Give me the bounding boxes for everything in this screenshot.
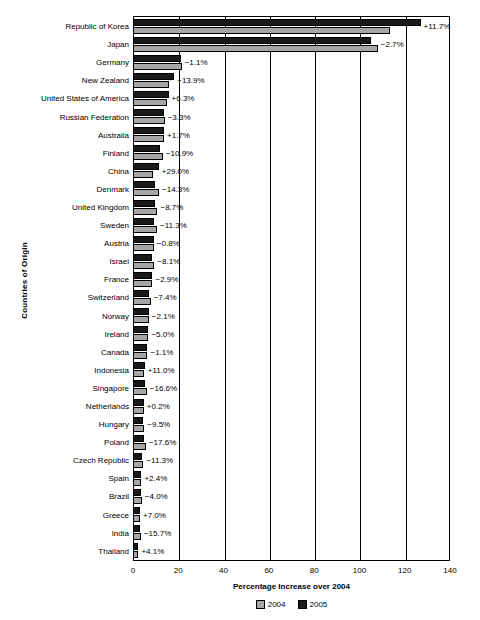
x-tick-label: 20: [174, 566, 183, 575]
legend-label-2004: 2004: [268, 600, 286, 609]
bar-2004: [133, 425, 144, 432]
bar-group: [133, 489, 450, 504]
bar-row: Russian Federation−3.3%: [133, 107, 450, 125]
bar-2005: [133, 399, 144, 406]
bar-2005: [133, 37, 371, 44]
bar-row: Australia+1.7%: [133, 126, 450, 144]
data-label: +11.7%: [421, 22, 451, 31]
data-label: −1.1%: [182, 58, 208, 67]
bar-2005: [133, 290, 149, 297]
data-label: −11.3%: [143, 456, 173, 465]
bar-2005: [133, 308, 149, 315]
bar-group: [133, 362, 450, 377]
data-label: +29.0%: [159, 166, 189, 175]
data-label: −8.7%: [157, 202, 183, 211]
category-label: Israel: [109, 257, 129, 266]
bar-row: Canada−1.1%: [133, 343, 450, 361]
bar-2005: [133, 73, 174, 80]
bar-group: [133, 290, 450, 305]
category-label: Germany: [96, 58, 129, 67]
bar-group: [133, 308, 450, 323]
bar-2004: [133, 479, 141, 486]
bar-2004: [133, 497, 142, 504]
x-tick-label: 140: [443, 566, 456, 575]
bar-rows: Republic of Korea+11.7%Japan−2.7%Germany…: [133, 17, 450, 560]
category-label: Hungary: [99, 420, 129, 429]
category-label: Spain: [109, 474, 129, 483]
category-label: Japan: [107, 40, 129, 49]
bar-row: Spain+2.4%: [133, 469, 450, 487]
x-axis-title: Percentage Increase over 2004: [133, 582, 450, 591]
bar-2004: [133, 334, 148, 341]
bar-row: Switzerland−7.4%: [133, 288, 450, 306]
category-label: Greece: [103, 510, 129, 519]
bar-group: [133, 272, 450, 287]
data-label: −5.0%: [148, 329, 174, 338]
category-label: Indonesia: [94, 365, 129, 374]
category-label: France: [104, 275, 129, 284]
data-label: −4.0%: [142, 492, 168, 501]
category-label: New Zealand: [82, 76, 129, 85]
bar-2005: [133, 145, 160, 152]
bar-2005: [133, 91, 169, 98]
bar-2004: [133, 45, 378, 52]
bar-row: Poland−17.6%: [133, 433, 450, 451]
bar-2005: [133, 127, 164, 134]
legend-label-2005: 2005: [310, 600, 328, 609]
bar-2005: [133, 55, 181, 62]
data-label: +0.2%: [144, 402, 170, 411]
bar-row: Norway−2.1%: [133, 307, 450, 325]
bar-row: Sweden−11.3%: [133, 216, 450, 234]
data-label: −7.4%: [151, 293, 177, 302]
bar-2005: [133, 344, 147, 351]
category-label: Singapore: [93, 383, 129, 392]
bar-group: [133, 417, 450, 432]
bar-2005: [133, 453, 142, 460]
bar-2004: [133, 244, 154, 251]
x-axis-ticks: 020406080100120140: [133, 566, 450, 578]
bar-row: Netherlands+0.2%: [133, 397, 450, 415]
bar-2004: [133, 388, 147, 395]
bar-group: [133, 326, 450, 341]
bar-2004: [133, 443, 146, 450]
bar-2004: [133, 63, 182, 70]
category-label: Sweden: [100, 221, 129, 230]
bar-2005: [133, 435, 144, 442]
bar-group: [133, 254, 450, 269]
bar-row: Ireland−5.0%: [133, 325, 450, 343]
data-label: −9.5%: [144, 420, 170, 429]
bar-row: Israel−8.1%: [133, 252, 450, 270]
data-label: +6.3%: [169, 94, 195, 103]
data-label: −14.3%: [159, 184, 189, 193]
bar-chart: Countries of Origin Republic of Korea+11…: [0, 0, 480, 620]
bar-2005: [133, 489, 141, 496]
bar-group: [133, 19, 450, 34]
x-tick-label: 120: [398, 566, 411, 575]
bar-row: Thailand+4.1%: [133, 542, 450, 560]
bar-2005: [133, 181, 155, 188]
bar-2004: [133, 135, 164, 142]
legend-item-2005: 2005: [298, 600, 328, 609]
bar-2005: [133, 471, 141, 478]
bar-2004: [133, 515, 140, 522]
category-label: United States of America: [41, 94, 129, 103]
legend-item-2004: 2004: [256, 600, 286, 609]
category-label: United Kingdom: [72, 202, 129, 211]
bar-group: [133, 525, 450, 540]
x-tick-label: 100: [353, 566, 366, 575]
category-label: Norway: [102, 311, 129, 320]
data-label: +4.1%: [138, 546, 164, 555]
bar-2005: [133, 380, 145, 387]
x-tick-label: 40: [219, 566, 228, 575]
bar-2005: [133, 19, 421, 26]
bar-2004: [133, 171, 153, 178]
data-label: −11.3%: [157, 221, 187, 230]
bar-2005: [133, 236, 154, 243]
bar-2005: [133, 326, 148, 333]
data-label: −15.7%: [141, 528, 171, 537]
bar-row: Indonesia+11.0%: [133, 361, 450, 379]
bar-2005: [133, 362, 145, 369]
data-label: −10.9%: [163, 148, 193, 157]
bar-2005: [133, 254, 152, 261]
bar-group: [133, 55, 450, 70]
